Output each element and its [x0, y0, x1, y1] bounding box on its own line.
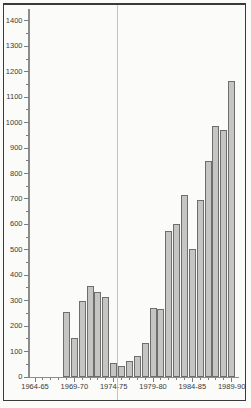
- y-tick-label-700: 700: [0, 194, 23, 204]
- y-tick-800: [24, 173, 30, 174]
- bar-1979-80: [150, 308, 157, 377]
- bar-1985-86: [197, 200, 204, 377]
- x-minor-tick-year-9: [105, 378, 106, 381]
- x-tick-label-1969-70: 1969-70: [54, 382, 94, 392]
- bar-1984-85: [189, 249, 196, 377]
- scanned-bar-chart: 0100200300400500600700800900100011001200…: [0, 0, 251, 408]
- x-minor-tick-year-13: [137, 378, 138, 381]
- x-tick-label-1974-75: 1974-75: [94, 382, 134, 392]
- y-tick-300: [24, 300, 30, 301]
- x-minor-tick-year-18: [176, 378, 177, 381]
- y-tick-200: [24, 326, 30, 327]
- bar-1974-75: [110, 363, 117, 377]
- y-tick-400: [24, 275, 30, 276]
- y-tick-1300: [24, 46, 30, 47]
- bar-1983-84: [181, 195, 188, 377]
- y-minor-tick-1250: [26, 59, 29, 60]
- x-minor-tick-year-7: [90, 378, 91, 381]
- x-minor-tick-year-12: [129, 378, 130, 381]
- x-minor-tick-year-8: [97, 378, 98, 381]
- x-minor-tick-year-11: [121, 378, 122, 381]
- y-tick-1100: [24, 97, 30, 98]
- y-tick-500: [24, 249, 30, 250]
- y-minor-tick-150: [26, 338, 29, 339]
- bar-1976-77: [126, 361, 133, 377]
- y-axis: [28, 9, 29, 378]
- y-tick-label-1100: 1100: [0, 92, 23, 102]
- bar-1989-90: [228, 81, 235, 377]
- y-tick-1200: [24, 71, 30, 72]
- x-minor-tick-year-16: [160, 378, 161, 381]
- y-tick-label-900: 900: [0, 143, 23, 153]
- x-tick-label-1964-65: 1964-65: [15, 382, 55, 392]
- y-tick-label-800: 800: [0, 169, 23, 179]
- bar-1987-88: [212, 126, 219, 377]
- x-tick-label-1989-90: 1989-90: [212, 382, 251, 392]
- bar-1975-76: [118, 366, 125, 377]
- y-minor-tick-550: [26, 237, 29, 238]
- bar-1986-87: [205, 161, 212, 377]
- y-minor-tick-750: [26, 186, 29, 187]
- y-tick-label-400: 400: [0, 270, 23, 280]
- bar-1970-71: [79, 301, 86, 377]
- y-minor-tick-1050: [26, 109, 29, 110]
- y-tick-label-1200: 1200: [0, 67, 23, 77]
- y-tick-label-1300: 1300: [0, 41, 23, 51]
- scan-fold-line: [117, 5, 118, 400]
- bar-1980-81: [157, 309, 164, 377]
- bar-1988-89: [220, 130, 227, 377]
- x-minor-tick-year-19: [184, 378, 185, 381]
- y-tick-label-600: 600: [0, 219, 23, 229]
- bar-1978-79: [142, 343, 149, 377]
- x-minor-tick-year-2: [50, 378, 51, 381]
- x-tick-label-1979-80: 1979-80: [133, 382, 173, 392]
- x-minor-tick-year-21: [200, 378, 201, 381]
- y-tick-700: [24, 198, 30, 199]
- y-minor-tick-350: [26, 287, 29, 288]
- y-minor-tick-850: [26, 160, 29, 161]
- y-minor-tick-1150: [26, 84, 29, 85]
- bar-1972-73: [94, 292, 101, 377]
- y-tick-label-0: 0: [0, 372, 23, 382]
- y-tick-100: [24, 351, 30, 352]
- x-minor-tick-year-23: [215, 378, 216, 381]
- y-tick-0: [24, 377, 30, 378]
- bar-1968-69: [63, 312, 70, 377]
- bar-1969-70: [71, 338, 78, 377]
- bar-1981-82: [165, 231, 172, 377]
- y-tick-label-1000: 1000: [0, 118, 23, 128]
- y-tick-label-200: 200: [0, 321, 23, 331]
- bar-1977-78: [134, 356, 141, 377]
- x-minor-tick-year-6: [82, 378, 83, 381]
- x-minor-tick-year-24: [223, 378, 224, 381]
- y-minor-tick-950: [26, 135, 29, 136]
- bar-1982-83: [173, 224, 180, 377]
- x-minor-tick-year-14: [145, 378, 146, 381]
- y-minor-tick-250: [26, 313, 29, 314]
- y-tick-label-500: 500: [0, 245, 23, 255]
- x-tick-label-1984-85: 1984-85: [172, 382, 212, 392]
- y-tick-label-100: 100: [0, 347, 23, 357]
- y-tick-label-1400: 1400: [0, 16, 23, 26]
- y-tick-label-300: 300: [0, 296, 23, 306]
- y-minor-tick-650: [26, 211, 29, 212]
- bar-1971-72: [87, 286, 94, 377]
- y-tick-900: [24, 148, 30, 149]
- y-tick-600: [24, 224, 30, 225]
- y-minor-tick-50: [26, 364, 29, 365]
- x-minor-tick-year-3: [58, 378, 59, 381]
- y-tick-1400: [24, 20, 30, 21]
- y-minor-tick-450: [26, 262, 29, 263]
- x-minor-tick-year-22: [208, 378, 209, 381]
- x-minor-tick-year-1: [42, 378, 43, 381]
- y-minor-tick-1350: [26, 33, 29, 34]
- bar-1973-74: [102, 297, 109, 377]
- y-tick-1000: [24, 122, 30, 123]
- x-minor-tick-year-4: [66, 378, 67, 381]
- x-minor-tick-year-17: [168, 378, 169, 381]
